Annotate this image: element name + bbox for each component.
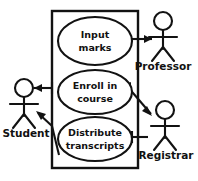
actor-professor[interactable]: Professor xyxy=(135,12,192,72)
actor-right-leg-line xyxy=(163,47,174,61)
use-case-distribute-transcripts[interactable]: Distribute transcripts xyxy=(58,117,132,161)
actor-left-leg-line xyxy=(154,136,165,150)
actor-label: Student xyxy=(2,127,49,139)
actor-left-leg-line xyxy=(13,114,24,128)
arrowhead-enroll-to-registrar xyxy=(142,106,152,116)
use-case-enroll-in-course[interactable]: Enroll in course xyxy=(58,70,132,114)
actor-head-icon xyxy=(15,79,33,97)
use-case-label-line2: transcripts xyxy=(66,140,125,151)
actor-label: Registrar xyxy=(138,149,194,161)
use-case-label-line2: course xyxy=(77,93,113,104)
actor-head-icon xyxy=(156,101,174,119)
use-case-input-marks[interactable]: Input marks xyxy=(58,17,132,65)
use-case-label-line2: marks xyxy=(79,42,112,53)
use-case-diagram: Input marks Enroll in course Distribute … xyxy=(0,0,198,181)
actor-right-leg-line xyxy=(24,114,35,128)
arrowhead-enroll-to-student xyxy=(34,84,42,92)
actor-head-icon xyxy=(154,12,172,30)
actor-left-leg-line xyxy=(152,47,163,61)
actor-label: Professor xyxy=(135,60,192,72)
use-case-label-line1: Enroll in xyxy=(73,80,118,91)
diagram-canvas: Input marks Enroll in course Distribute … xyxy=(0,0,198,181)
use-case-label-line1: Distribute xyxy=(68,127,122,138)
actor-right-leg-line xyxy=(165,136,176,150)
use-case-label-line1: Input xyxy=(81,29,110,40)
